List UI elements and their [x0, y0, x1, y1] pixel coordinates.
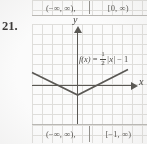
formula-equals: = [93, 55, 98, 64]
formula-minus: − [117, 55, 122, 64]
graph-panel: x y f(x) = 1 2 |x| − 1 [32, 24, 147, 124]
function-curve [32, 24, 147, 124]
domain-answer-bottom: (−∞, ∞), [32, 129, 90, 139]
range-answer-bottom: [−1, ∞) [90, 129, 148, 139]
range-answer-top: [0, ∞) [90, 3, 148, 13]
previous-answer-row: (−∞, ∞), [0, ∞) [32, 0, 147, 16]
formula-lhs: f(x) [79, 55, 91, 64]
answer-row-top: (−∞, ∞), [0, ∞) [32, 0, 147, 15]
formula-absolute-value: |x| [107, 55, 115, 64]
function-formula: f(x) = 1 2 |x| − 1 [79, 51, 128, 67]
fraction-denominator: 2 [100, 59, 106, 68]
domain-answer-top: (−∞, ∞), [32, 3, 90, 13]
current-answer-row: (−∞, ∞), [−1, ∞) [32, 124, 147, 143]
formula-constant: 1 [124, 55, 128, 64]
formula-coefficient-fraction: 1 2 [100, 51, 106, 67]
absolute-value-graph-line [32, 70, 128, 96]
answer-row-bottom: (−∞, ∞), [−1, ∞) [32, 125, 147, 143]
fraction-numerator: 1 [100, 51, 106, 59]
problem-number: 21. [2, 19, 18, 34]
